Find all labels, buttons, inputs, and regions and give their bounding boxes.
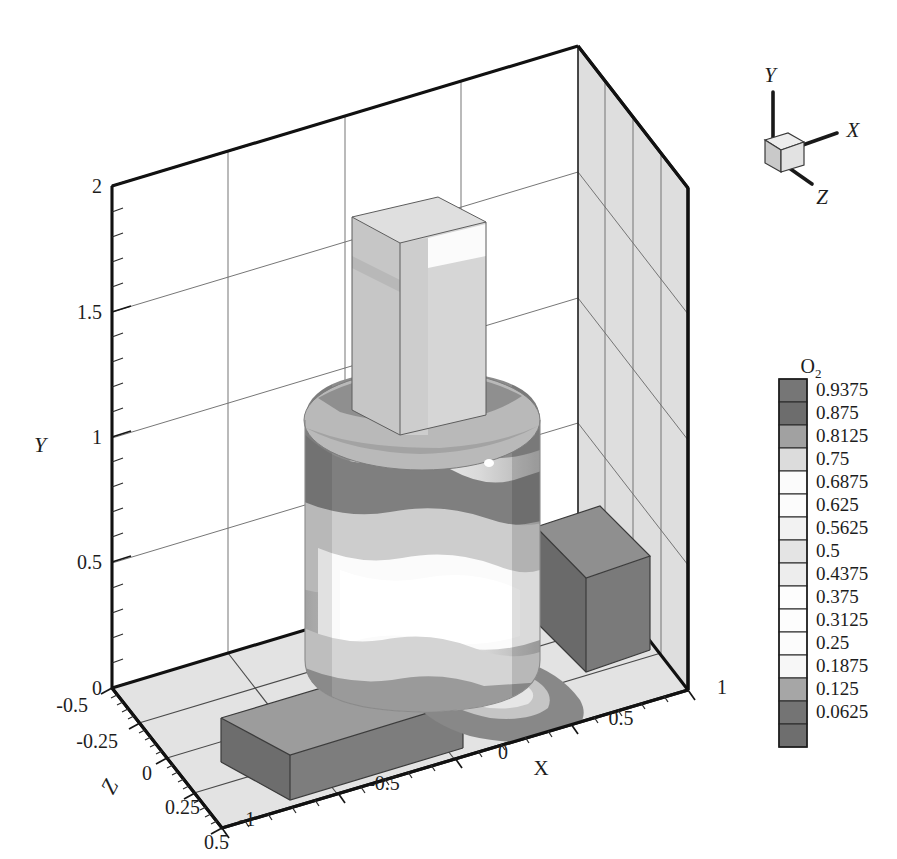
colorbar-swatch[interactable] [779, 701, 807, 724]
colorbar-level-label: 0.875 [816, 402, 859, 423]
colorbar-level-label: 0.3125 [816, 609, 868, 630]
colorbar-level-label: 0.1875 [816, 655, 868, 676]
colorbar-swatch[interactable] [779, 379, 807, 402]
colorbar-level-label: 0.375 [816, 586, 859, 607]
colorbar-swatch[interactable] [779, 494, 807, 517]
colorbar-swatch[interactable] [779, 609, 807, 632]
colorbar-legend[interactable]: O2 0.93750.8750.81250.750.68750.6250.562… [0, 0, 897, 859]
colorbar-swatch-column[interactable] [779, 379, 807, 747]
colorbar-swatch[interactable] [779, 425, 807, 448]
colorbar-swatch[interactable] [779, 471, 807, 494]
colorbar-swatch[interactable] [779, 586, 807, 609]
colorbar-level-label: 0.0625 [816, 701, 868, 722]
colorbar-level-label: 0.5 [816, 540, 840, 561]
colorbar-level-label: 0.75 [816, 448, 849, 469]
colorbar-level-label: 0.625 [816, 494, 859, 515]
colorbar-swatch[interactable] [779, 402, 807, 425]
colorbar-tick-labels: 0.93750.8750.81250.750.68750.6250.56250.… [816, 379, 868, 722]
colorbar-title: O2 [801, 355, 822, 381]
colorbar-level-label: 0.25 [816, 632, 849, 653]
colorbar-level-label: 0.4375 [816, 563, 868, 584]
figure-canvas: 0 0.5 1 1.5 2 Y [0, 0, 897, 859]
colorbar-swatch[interactable] [779, 632, 807, 655]
colorbar-swatch[interactable] [779, 724, 807, 747]
colorbar-swatch[interactable] [779, 448, 807, 471]
colorbar-swatch[interactable] [779, 563, 807, 586]
colorbar-swatch[interactable] [779, 517, 807, 540]
colorbar-swatch[interactable] [779, 540, 807, 563]
colorbar-level-label: 0.9375 [816, 379, 868, 400]
colorbar-level-label: 0.8125 [816, 425, 868, 446]
colorbar-level-label: 0.5625 [816, 517, 868, 538]
colorbar-swatch[interactable] [779, 655, 807, 678]
colorbar-swatch[interactable] [779, 678, 807, 701]
colorbar-level-label: 0.125 [816, 678, 859, 699]
colorbar-level-label: 0.6875 [816, 471, 868, 492]
